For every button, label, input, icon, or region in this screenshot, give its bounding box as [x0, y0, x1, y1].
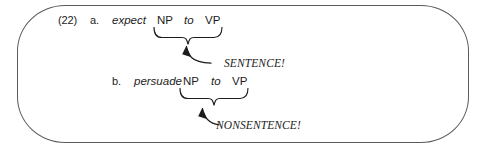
- verb-expect: expect: [112, 14, 146, 26]
- result-label-nonsentence: NONSENTENCE!: [216, 119, 301, 131]
- category-np-a: NP: [157, 14, 173, 26]
- result-label-sentence: SENTENCE!: [224, 57, 285, 69]
- infinitive-to-b: to: [211, 75, 221, 87]
- category-vp-a: VP: [205, 14, 220, 26]
- item-letter-a: a.: [90, 14, 99, 26]
- verb-persuade: persuade: [134, 75, 182, 87]
- infinitive-to-a: to: [184, 14, 194, 26]
- category-np-b: NP: [183, 75, 199, 87]
- example-number: (22): [58, 14, 77, 26]
- item-letter-b: b.: [112, 75, 121, 87]
- figure-page: (22) a. expect NP to VP SENTENCE! b. per…: [0, 0, 487, 155]
- pointer-arrow-a: [181, 46, 223, 72]
- category-vp-b: VP: [232, 75, 247, 87]
- example-block: (22) a. expect NP to VP SENTENCE! b. per…: [0, 0, 487, 155]
